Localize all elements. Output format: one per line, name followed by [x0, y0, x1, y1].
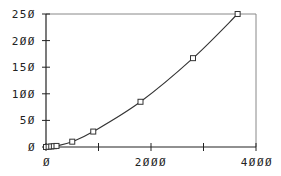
y-tick-label-0: Ø	[28, 141, 36, 154]
square-marker-icon	[91, 129, 96, 134]
square-marker-icon	[70, 139, 75, 144]
y-tick-label-150: 15Ø	[12, 61, 36, 74]
line-chart: Ø 5Ø 1ØØ 15Ø 2ØØ 25Ø Ø 2ØØØ 4ØØØ	[0, 0, 281, 176]
y-tick-label-200: 2ØØ	[12, 35, 36, 48]
square-marker-icon	[54, 143, 59, 148]
square-marker-icon	[138, 99, 143, 104]
y-tick-label-100: 1ØØ	[12, 88, 36, 101]
square-marker-icon	[235, 12, 240, 17]
x-tick-label-2000: 2ØØØ	[135, 156, 168, 169]
x-tick-label-0: Ø	[43, 156, 51, 169]
x-tick-label-4000: 4ØØØ	[241, 156, 274, 169]
square-marker-icon	[191, 56, 196, 61]
data-curve	[46, 14, 238, 147]
y-tick-label-250: 25Ø	[12, 8, 36, 21]
y-tick-label-50: 5Ø	[20, 114, 36, 127]
data-markers	[44, 12, 241, 150]
